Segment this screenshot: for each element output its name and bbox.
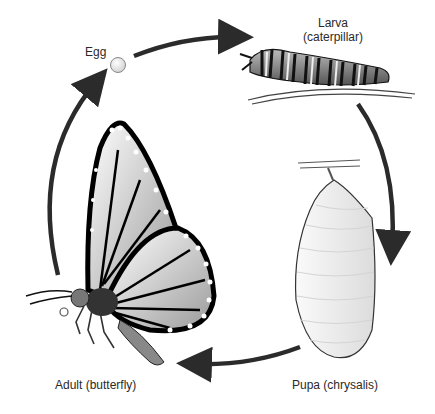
- chrysalis-illustration: [296, 160, 375, 358]
- adult-label: Adult (butterfly): [55, 378, 136, 392]
- caterpillar-illustration: [240, 49, 415, 104]
- life-cycle-diagram: [0, 0, 435, 414]
- arrow-egg-to-larva: [134, 37, 236, 56]
- larva-label-line2: (caterpillar): [288, 30, 378, 44]
- egg-label: Egg: [85, 45, 106, 59]
- egg-illustration: [111, 58, 126, 73]
- larva-label: Larva (caterpillar): [288, 16, 378, 44]
- pupa-label: Pupa (chrysalis): [292, 378, 378, 392]
- larva-label-line1: Larva: [288, 16, 378, 30]
- arrow-pupa-to-adult: [194, 347, 300, 364]
